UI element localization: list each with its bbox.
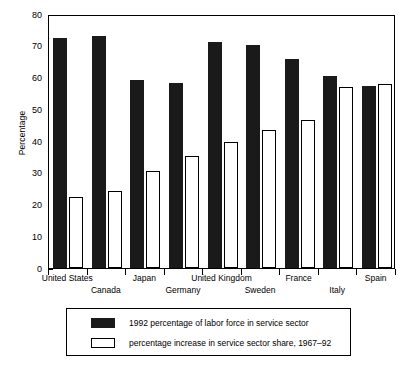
bar-france-series1 [285,59,299,268]
bar-germany-series2 [185,156,199,268]
chart-legend: 1992 percentage of labor force in servic… [66,308,351,356]
bar-sweden-series1 [246,45,260,268]
bar-italy-series1 [323,76,337,268]
bar-canada-series1 [92,36,106,268]
dark-filled-swatch [91,318,115,328]
legend-item-light: percentage increase in service sector sh… [67,334,350,352]
bar-japan-series2 [146,171,160,268]
x-tick-mark [164,269,165,275]
bar-germany-series1 [169,83,183,268]
bar-united-kingdom-series1 [208,42,222,268]
bar-united-kingdom-series2 [224,142,238,268]
y-tick-value: 80 [8,11,42,20]
bar-united-states-series2 [69,197,83,268]
y-tick-value: 50 [8,106,42,115]
x-tick-label-united-states: United States [42,273,93,283]
legend-item-label: 1992 percentage of labor force in servic… [129,318,309,328]
plot-area [48,15,395,269]
bar-chart-figure: Percentage 01020304050607080 United Stat… [0,0,415,371]
bars-layer [49,16,394,268]
bar-canada-series2 [108,191,122,268]
x-tick-label-canada: Canada [91,285,121,295]
y-tick-value: 40 [8,138,42,147]
bar-spain-series2 [378,84,392,268]
y-tick-value: 0 [8,265,42,274]
x-tick-label-japan: Japan [133,273,156,283]
bar-spain-series1 [362,86,376,268]
x-tick-mark [356,269,357,275]
white-outlined-swatch [91,338,115,348]
x-tick-label-sweden: Sweden [245,285,276,295]
x-tick-label-italy: Italy [329,285,345,295]
bar-sweden-series2 [262,130,276,268]
x-tick-label-germany: Germany [165,285,200,295]
x-tick-mark [279,269,280,275]
x-tick-label-spain: Spain [365,273,387,283]
x-tick-mark [125,269,126,275]
y-tick-value: 30 [8,169,42,178]
legend-item-dark: 1992 percentage of labor force in servic… [67,314,350,332]
x-tick-label-france: France [285,273,311,283]
legend-item-label: percentage increase in service sector sh… [129,338,331,348]
x-tick-mark [318,269,319,275]
x-tick-label-united-kingdom: United Kingdom [191,273,251,283]
bar-france-series2 [301,120,315,268]
y-tick-value: 70 [8,42,42,51]
y-tick-value: 60 [8,74,42,83]
x-tick-mark [395,269,396,275]
y-tick-value: 20 [8,201,42,210]
bar-united-states-series1 [53,38,67,268]
y-tick-value: 10 [8,233,42,242]
bar-italy-series2 [339,87,353,268]
bar-japan-series1 [130,80,144,268]
